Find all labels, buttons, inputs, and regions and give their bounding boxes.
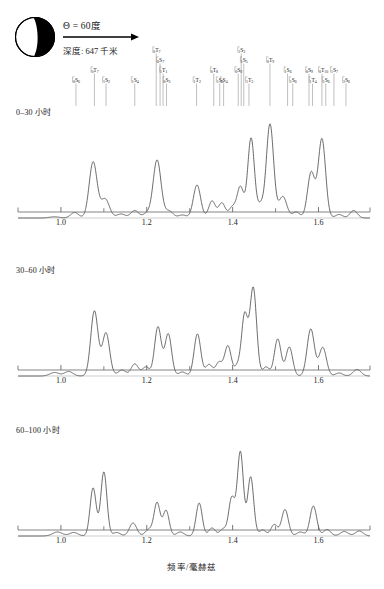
svg-text:0S7: 0S7 [157,57,164,64]
svg-text:1T3: 1T3 [246,77,253,84]
svg-text:1.4: 1.4 [228,218,238,227]
svg-text:1.0: 1.0 [56,536,66,545]
svg-text:0T10: 0T10 [319,67,328,74]
svg-text:1S6: 1S6 [323,77,330,84]
svg-text:0S9: 0S9 [306,67,313,74]
x-axis-1: 1.01.21.41.6 [0,206,384,232]
svg-text:0T7: 0T7 [153,47,160,54]
svg-text:0S6: 0S6 [73,77,80,84]
svg-text:1.6: 1.6 [313,218,323,227]
x-axis-3: 1.01.21.41.6 [0,524,384,550]
svg-text:1.4: 1.4 [228,536,238,545]
svg-text:0T9: 0T9 [267,57,274,64]
svg-text:1S6: 1S6 [290,77,297,84]
svg-text:1T2: 1T2 [194,77,201,84]
svg-text:0T7: 0T7 [91,67,98,74]
svg-text:1S2: 1S2 [103,77,110,84]
svg-text:1T4: 1T4 [309,77,316,84]
svg-text:1S3: 1S3 [238,47,245,54]
x-axis-2: 1.01.21.41.6 [0,364,384,390]
x-axis-label: 频率/毫赫兹 [0,560,384,572]
svg-text:1S6: 1S6 [285,67,292,74]
svg-text:1S5: 1S5 [241,57,248,64]
svg-text:1T1: 1T1 [160,67,167,74]
theta-annotation: Θ = 60度 [63,18,101,32]
svg-text:1.2: 1.2 [142,536,152,545]
svg-text:2S6: 2S6 [343,77,350,84]
svg-text:1.6: 1.6 [313,376,323,385]
svg-text:1S4: 1S4 [132,77,139,84]
svg-text:1.2: 1.2 [142,376,152,385]
svg-text:0S3: 0S3 [164,77,171,84]
svg-text:1.0: 1.0 [56,376,66,385]
svg-text:1S7: 1S7 [331,67,338,74]
svg-text:1.6: 1.6 [313,536,323,545]
svg-text:0T8: 0T8 [211,67,218,74]
svg-text:1.4: 1.4 [228,376,238,385]
mode-label-band: 0S60T71S21S40T70S71T10S31T20T81S52S40S81… [0,34,384,106]
svg-text:1.2: 1.2 [142,218,152,227]
figure-root: Θ = 60度 深度: 647 千米 0S60T71S21S40T70S71T1… [0,0,384,589]
svg-text:1.0: 1.0 [56,218,66,227]
svg-text:2S4: 2S4 [221,77,228,84]
